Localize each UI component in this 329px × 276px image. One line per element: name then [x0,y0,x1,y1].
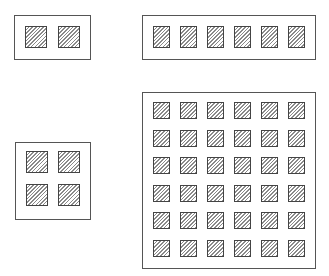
hatched-square [288,26,305,48]
hatched-square [207,212,224,229]
hatched-square [261,26,278,48]
hatched-square [153,26,170,48]
hatched-square [234,157,251,174]
hatched-square [288,212,305,229]
hatched-square [234,130,251,147]
hatched-square [26,151,48,173]
hatched-square [207,240,224,257]
hatched-square [234,212,251,229]
hatched-square [153,130,170,147]
hatched-square [207,185,224,202]
hatched-square [26,184,48,206]
hatched-square [288,185,305,202]
hatched-square [288,157,305,174]
hatched-square [288,130,305,147]
hatched-square [288,240,305,257]
hatched-square [234,102,251,119]
hatched-square [234,26,251,48]
hatched-square [234,185,251,202]
hatched-square [288,102,305,119]
hatched-square [180,185,197,202]
hatched-square [58,151,80,173]
hatched-square [180,240,197,257]
hatched-square [207,26,224,48]
hatched-square [153,185,170,202]
hatched-square [207,130,224,147]
hatched-square [261,157,278,174]
hatched-square [261,130,278,147]
hatched-square [58,184,80,206]
hatched-square [180,102,197,119]
hatched-square [58,26,80,48]
hatched-square [207,102,224,119]
hatched-square [153,157,170,174]
hatched-square [153,102,170,119]
hatched-square [180,26,197,48]
hatched-square [207,157,224,174]
hatched-square [180,212,197,229]
hatched-square [153,212,170,229]
hatched-square [153,240,170,257]
hatched-square [180,157,197,174]
hatched-square [261,102,278,119]
hatched-square [25,26,47,48]
hatched-square [261,212,278,229]
hatched-square [261,240,278,257]
hatched-square [261,185,278,202]
hatched-square [180,130,197,147]
hatched-square [234,240,251,257]
